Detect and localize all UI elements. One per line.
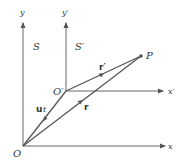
vector-r-label: r: [84, 102, 89, 112]
x-prime-axis-label: x′: [168, 87, 175, 96]
origin-O-label: O: [13, 148, 21, 159]
origin-O-prime-label: O′: [53, 86, 64, 97]
y-prime-axis-label: y′: [61, 8, 69, 17]
point-P-label: P: [145, 50, 153, 61]
vector-r-prime-label: r′: [99, 62, 106, 72]
point-P: [139, 54, 143, 58]
frame-diagram: y y′ S S′ O′ O P x′ x u t r r′: [0, 0, 182, 164]
vector-ut-label-t: t: [43, 105, 47, 114]
frame-S-prime-label: S′: [75, 41, 85, 52]
frame-S-label: S: [33, 41, 40, 52]
y-axis-label: y: [19, 8, 25, 17]
vector-ut-label-u: u: [36, 104, 42, 114]
x-axis-label: x: [168, 142, 173, 151]
